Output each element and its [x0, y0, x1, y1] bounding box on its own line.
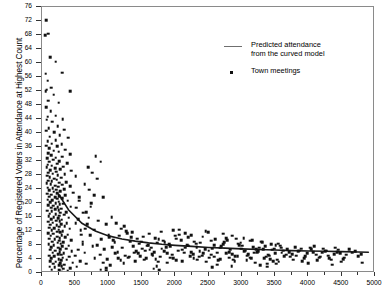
data-point	[195, 246, 198, 249]
data-point	[68, 256, 71, 259]
data-point	[213, 256, 216, 259]
data-point	[360, 253, 363, 256]
y-axis-tick-label: 0	[18, 269, 32, 276]
data-point	[222, 232, 225, 235]
data-point	[307, 262, 310, 265]
data-point	[51, 187, 54, 190]
data-point	[216, 263, 219, 266]
data-point	[274, 252, 277, 255]
data-point	[204, 248, 207, 251]
y-axis-tick-label: 60	[18, 59, 32, 66]
data-point	[193, 257, 196, 260]
data-point	[49, 183, 52, 186]
x-axis-tick	[74, 272, 75, 276]
data-point	[91, 172, 94, 175]
data-point	[214, 238, 217, 241]
data-point	[210, 239, 213, 242]
data-point	[47, 32, 50, 35]
data-point	[50, 229, 53, 232]
data-point	[163, 241, 166, 244]
data-point	[63, 188, 66, 191]
data-point	[44, 90, 47, 93]
data-point	[263, 257, 266, 260]
data-point	[175, 259, 178, 262]
data-point	[211, 247, 214, 250]
data-point	[52, 263, 55, 266]
data-point	[205, 260, 208, 263]
data-point	[275, 263, 278, 266]
data-point	[137, 252, 140, 255]
data-point	[51, 221, 54, 224]
data-point	[69, 153, 72, 156]
data-point	[313, 245, 316, 248]
data-point	[62, 241, 65, 244]
x-axis-minor-tick	[224, 272, 225, 275]
data-point	[193, 240, 196, 243]
y-axis-tick-label: 16	[18, 213, 32, 220]
data-point	[61, 230, 64, 233]
data-point	[157, 238, 160, 241]
data-point	[54, 260, 57, 263]
data-point	[295, 254, 298, 257]
data-point	[231, 235, 234, 238]
data-point	[49, 135, 52, 138]
data-point	[184, 232, 187, 235]
data-point	[54, 156, 57, 159]
data-point	[50, 207, 53, 210]
data-point	[67, 233, 70, 236]
x-axis-tick	[208, 272, 209, 276]
data-point	[272, 260, 275, 263]
data-point	[154, 258, 157, 261]
x-axis-tick-label: 3500	[259, 279, 289, 286]
data-point	[201, 235, 204, 238]
data-point	[110, 216, 113, 219]
data-point	[172, 257, 175, 260]
data-point	[99, 268, 102, 271]
data-point	[159, 256, 162, 259]
y-axis-tick-label: 48	[18, 101, 32, 108]
data-point	[51, 142, 54, 145]
x-axis-tick-label: 2000	[159, 279, 189, 286]
data-point	[46, 79, 49, 82]
data-point	[166, 261, 169, 264]
data-point	[64, 236, 67, 239]
data-point	[100, 238, 103, 241]
data-point	[60, 270, 63, 272]
y-axis-tick-label: 68	[18, 31, 32, 38]
data-point	[244, 249, 247, 252]
data-point	[59, 168, 62, 171]
data-point	[77, 218, 80, 221]
data-point	[120, 228, 123, 231]
data-point	[65, 247, 68, 250]
data-point	[178, 228, 181, 231]
data-point	[66, 270, 69, 272]
data-point	[85, 263, 88, 266]
data-point	[55, 219, 58, 222]
x-axis-minor-tick	[257, 272, 258, 275]
data-point	[270, 243, 273, 246]
data-point	[155, 265, 158, 268]
data-point	[234, 260, 237, 263]
data-point	[60, 176, 63, 179]
x-axis-tick-label: 3000	[226, 279, 256, 286]
data-point	[207, 249, 210, 252]
data-point	[199, 242, 202, 245]
data-point	[115, 222, 118, 225]
data-point	[51, 240, 54, 243]
x-axis-minor-tick	[357, 272, 358, 275]
data-point	[89, 205, 92, 208]
data-point	[53, 149, 56, 152]
data-point	[46, 140, 49, 143]
data-point	[79, 229, 82, 232]
data-point	[85, 211, 88, 214]
data-point	[245, 259, 248, 262]
data-point	[63, 252, 66, 255]
data-point	[242, 237, 245, 240]
x-axis-tick-label: 4500	[326, 279, 356, 286]
data-point	[165, 246, 168, 249]
data-point	[54, 60, 57, 63]
data-point	[45, 72, 48, 75]
data-point	[55, 170, 58, 173]
data-point	[247, 253, 250, 256]
data-point	[62, 202, 65, 205]
